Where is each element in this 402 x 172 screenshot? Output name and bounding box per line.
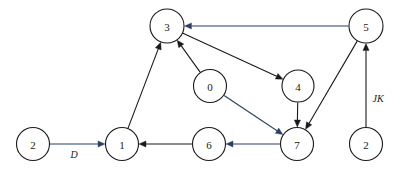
graph-node[interactable]: 6 [193, 128, 226, 161]
arrowhead-icon [275, 128, 283, 134]
arrowhead-icon [139, 141, 146, 147]
node-label: 5 [363, 21, 369, 33]
arrowhead-icon [363, 44, 369, 51]
edge-label: D [69, 149, 78, 160]
graph-edge [226, 141, 280, 147]
edge-line [224, 95, 277, 130]
arrowhead-icon [294, 120, 300, 127]
arrowhead-icon [155, 42, 161, 50]
graph-node[interactable]: 7 [281, 128, 314, 161]
graph-edge [50, 141, 105, 147]
graph-node[interactable]: 3 [150, 9, 184, 43]
graph-edge [363, 44, 369, 128]
edge-line [183, 33, 277, 76]
node-label: 3 [164, 21, 170, 33]
graph-node[interactable]: 0 [194, 70, 227, 103]
arrowhead-icon [226, 141, 233, 147]
nodes-layer: 213064752 [17, 9, 384, 161]
arrowhead-icon [98, 141, 105, 147]
arrowhead-icon [306, 122, 312, 130]
graph-node[interactable]: 4 [282, 70, 314, 102]
graph-edge [224, 95, 283, 134]
node-label: 7 [294, 139, 300, 151]
edge-label: JK [372, 93, 384, 104]
arrowhead-icon [185, 23, 192, 29]
directed-graph: DJK 213064752 [0, 0, 402, 172]
edge-line [128, 49, 158, 128]
graph-edge [183, 33, 283, 79]
node-label: 6 [206, 139, 212, 151]
graph-edge [185, 23, 349, 29]
arrowhead-icon [177, 40, 184, 48]
node-label: 2 [30, 139, 36, 151]
graph-node[interactable]: 2 [350, 128, 383, 161]
graph-edge [177, 40, 200, 72]
node-label: 1 [119, 139, 125, 151]
graph-node[interactable]: 2 [17, 128, 50, 161]
edge-line [309, 41, 357, 123]
edge-line [181, 46, 200, 72]
arrowhead-icon [275, 73, 283, 79]
diagram-canvas: DJK 213064752 [0, 0, 402, 172]
node-label: 0 [207, 81, 213, 93]
node-label: 4 [295, 81, 301, 93]
graph-edge [294, 103, 300, 128]
graph-edge [139, 141, 192, 147]
graph-node[interactable]: 5 [349, 9, 383, 43]
graph-edge [128, 42, 161, 128]
graph-node[interactable]: 1 [106, 128, 139, 161]
node-label: 2 [363, 139, 369, 151]
